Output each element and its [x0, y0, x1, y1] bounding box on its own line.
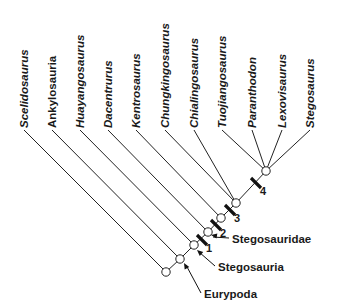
cladogram: 1234 ScelidosaurusAnkylosauriaHuayangosa…: [0, 0, 339, 308]
arrow-eurypoda: [186, 265, 201, 293]
taxon-label-stegosaurus: Stegosaurus: [304, 58, 316, 128]
branches: [24, 130, 310, 272]
node-circle: [162, 268, 170, 276]
taxon-labels: ScelidosaurusAnkylosauriaHuayangosaurusD…: [18, 23, 316, 128]
taxon-label-chialingosaurus: Chialingosaurus: [188, 38, 200, 128]
clade-label-stegosauridae: Stegosauridae: [232, 233, 311, 245]
node-circle: [204, 228, 212, 236]
cladogram-svg: 1234 ScelidosaurusAnkylosauriaHuayangosa…: [0, 0, 339, 308]
taxon-label-kentrosaurus: Kentrosaurus: [130, 53, 142, 128]
node-circle: [176, 255, 184, 263]
synapomorphy-number-4: 4: [260, 185, 267, 197]
clade-label-eurypoda: Eurypoda: [204, 288, 258, 300]
taxon-label-chungkingosaurus: Chungkingosaurus: [159, 23, 171, 128]
node-circle: [232, 199, 240, 207]
branch-ankylosauria: [52, 130, 180, 259]
branch-scelidosaurus: [24, 130, 166, 272]
taxon-label-paranthodon: Paranthodon: [246, 57, 258, 128]
clade-label-stegosauria: Stegosauria: [218, 261, 284, 273]
node-circle: [262, 167, 270, 175]
node-circle: [217, 214, 225, 222]
taxon-label-dacentrurus: Dacentrurus: [102, 60, 114, 128]
branch-huayangosaurus: [80, 130, 194, 245]
branch-stegosaurus: [266, 130, 310, 171]
taxon-label-lexovisaurus: Lexovisaurus: [276, 54, 288, 128]
branch-dacentrurus: [108, 130, 208, 232]
taxon-label-ankylosauria: Ankylosauria: [46, 55, 58, 128]
taxon-label-tuojiangosaurus: Tuojiangosaurus: [216, 36, 228, 128]
branch-lexovisaurus: [266, 130, 282, 171]
node-circle: [190, 241, 198, 249]
taxon-label-scelidosaurus: Scelidosaurus: [18, 49, 30, 128]
arrow-stegosauria: [199, 252, 215, 266]
synapomorphy-number-1: 1: [206, 242, 212, 254]
synapomorphy-number-3: 3: [234, 212, 240, 224]
taxon-label-huayangosaurus: Huayangosaurus: [74, 35, 86, 128]
